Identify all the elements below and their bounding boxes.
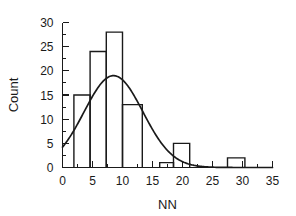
histogram-bar	[90, 52, 106, 168]
y-tick-label: 10	[40, 113, 54, 127]
x-tick-label: 30	[236, 174, 250, 188]
histogram-bar	[160, 163, 174, 168]
histogram-figure: 05101520253035051015202530NNCount	[0, 0, 296, 216]
histogram-bars	[74, 32, 245, 167]
x-tick-label: 5	[89, 174, 96, 188]
histogram-bar	[123, 105, 143, 168]
x-axis-title: NN	[158, 197, 177, 212]
x-tick-label: 35	[266, 174, 280, 188]
y-axis-title: Count	[6, 77, 21, 112]
x-tick-label: 15	[146, 174, 160, 188]
histogram-bar	[106, 32, 122, 167]
gaussian-fit-curve	[63, 76, 273, 168]
x-tick-label: 20	[176, 174, 190, 188]
y-tick-label: 25	[40, 40, 54, 54]
x-tick-label: 0	[59, 174, 66, 188]
y-tick-label: 15	[40, 89, 54, 103]
y-tick-label: 0	[47, 161, 54, 175]
y-tick-label: 30	[40, 16, 54, 30]
y-tick-label: 5	[47, 137, 54, 151]
x-tick-label: 10	[116, 174, 130, 188]
y-tick-label: 20	[40, 64, 54, 78]
chart-canvas: 05101520253035051015202530NNCount	[0, 0, 296, 216]
x-tick-label: 25	[206, 174, 220, 188]
